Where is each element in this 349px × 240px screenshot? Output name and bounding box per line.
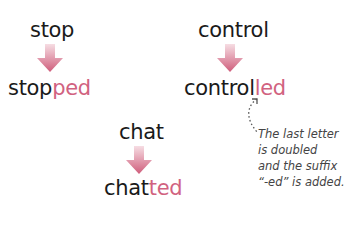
note-line: “-ed” is added.: [258, 174, 345, 190]
base-word-stop: stop: [30, 20, 74, 41]
note-line: and the suffix: [258, 158, 345, 174]
word-suffix: ped: [52, 76, 91, 100]
down-arrow-icon: [217, 44, 243, 72]
past-tense-word-stopped: stopped: [8, 78, 91, 99]
past-tense-word-chatted: chatted: [104, 178, 182, 199]
base-word-chat: chat: [119, 122, 164, 143]
word-stem: chat: [104, 176, 149, 200]
explanation-note: The last letter is doubled and the suffi…: [258, 126, 345, 190]
base-word-control: control: [198, 20, 269, 41]
past-tense-word-controlled: controlled: [184, 78, 286, 99]
down-arrow-icon: [126, 146, 152, 174]
word-suffix: ted: [149, 176, 183, 200]
note-line: is doubled: [258, 142, 345, 158]
down-arrow-icon: [37, 44, 63, 72]
note-line: The last letter: [258, 126, 345, 142]
word-stem: stop: [8, 76, 52, 100]
